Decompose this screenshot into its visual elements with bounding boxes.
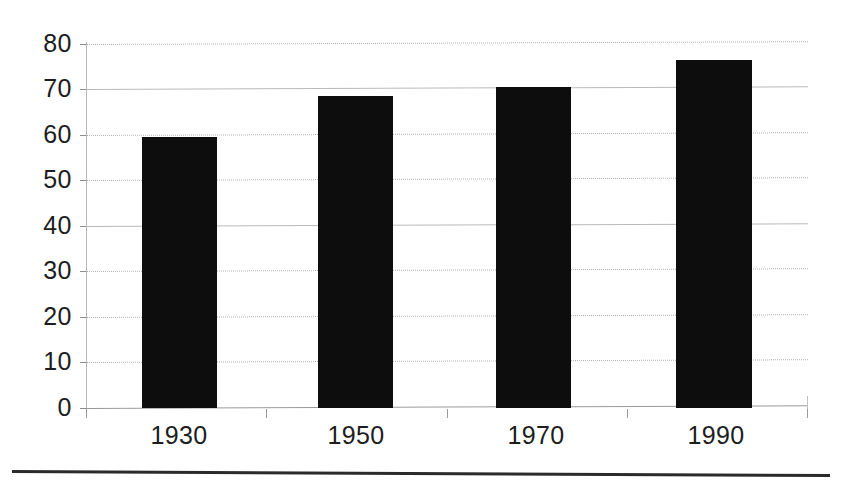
y-axis-tick-labels: 80 70 60 50 40 30 20 10 0 — [0, 0, 72, 491]
y-tick-label-50: 50 — [12, 167, 72, 192]
x-tick-mark-2 — [447, 409, 448, 418]
y-tick-label-30: 30 — [12, 258, 72, 283]
x-tick-mark-0 — [86, 409, 87, 418]
bar-1990 — [676, 60, 752, 408]
x-tick-label-1970: 1970 — [476, 421, 596, 449]
plot-area — [86, 44, 808, 408]
x-tick-mark-3 — [627, 409, 628, 418]
y-tick-label-10: 10 — [12, 349, 72, 374]
y-tick-label-20: 20 — [12, 304, 72, 329]
y-tick-label-80: 80 — [12, 31, 72, 56]
gridline-80 — [86, 41, 808, 45]
bar-chart-figure: 80 70 60 50 40 30 20 10 0 — [0, 0, 845, 491]
y-tick-label-40: 40 — [12, 213, 72, 238]
x-tick-label-1990: 1990 — [656, 421, 776, 449]
bottom-rule — [12, 470, 830, 477]
bar-1930 — [142, 137, 217, 408]
x-tick-mark-1 — [266, 409, 267, 418]
y-tick-label-0: 0 — [12, 395, 72, 420]
x-tick-label-1930: 1930 — [119, 421, 239, 449]
x-tick-mark-4 — [807, 409, 808, 418]
x-tick-label-1950: 1950 — [296, 421, 416, 449]
y-tick-label-70: 70 — [12, 76, 72, 101]
y-tick-label-60: 60 — [12, 122, 72, 147]
bar-1950 — [318, 96, 393, 408]
bar-1970 — [496, 87, 571, 408]
